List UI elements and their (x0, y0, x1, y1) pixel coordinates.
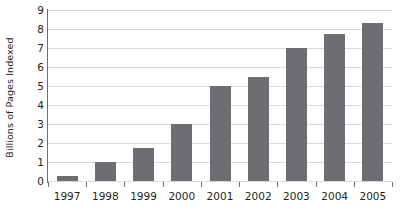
y-axis-tick-label: 1 (28, 157, 44, 167)
y-axis-tick-label: 9 (28, 5, 44, 15)
bar (286, 48, 307, 181)
bar (210, 86, 231, 181)
x-axis-tick-label: 2005 (354, 190, 392, 202)
x-axis-tick-mark (48, 182, 49, 187)
bar (171, 124, 192, 181)
bar (248, 77, 269, 182)
gridline (48, 181, 392, 182)
x-axis-tick-label: 2002 (239, 190, 277, 202)
bar (324, 34, 345, 181)
x-axis-tick-label: 2004 (316, 190, 354, 202)
x-axis-tick-mark (86, 182, 87, 187)
x-axis-tick-mark (239, 182, 240, 187)
plot-area (48, 10, 392, 181)
x-axis-tick-mark (316, 182, 317, 187)
x-axis-tick-mark (201, 182, 202, 187)
y-axis-tick-label: 8 (28, 24, 44, 34)
bar (57, 176, 78, 181)
bar (362, 23, 383, 181)
y-axis-tick-labels: 0123456789 (24, 0, 44, 221)
x-axis-tick-mark (163, 182, 164, 187)
x-axis-tick-label: 2001 (201, 190, 239, 202)
y-axis-tick-label: 6 (28, 62, 44, 72)
x-axis-tick-label: 2000 (163, 190, 201, 202)
gridline (48, 10, 392, 11)
x-axis-tick-mark (124, 182, 125, 187)
x-axis-tick-mark (354, 182, 355, 187)
bar (133, 148, 154, 181)
x-axis-tick-mark (392, 182, 393, 187)
x-axis-tick-mark (277, 182, 278, 187)
x-axis-tick-label: 1998 (86, 190, 124, 202)
x-axis-tick-label: 1999 (124, 190, 162, 202)
y-axis-title: Billions of Pages Indexed (3, 5, 17, 190)
y-axis-tick-label: 7 (28, 43, 44, 53)
y-axis-tick-label: 5 (28, 81, 44, 91)
gridline (48, 29, 392, 30)
x-axis-tick-label: 2003 (277, 190, 315, 202)
y-axis-tick-label: 3 (28, 119, 44, 129)
y-axis-tick-label: 4 (28, 100, 44, 110)
bar (95, 162, 116, 181)
y-axis-tick-label: 0 (28, 176, 44, 186)
x-axis-tick-label: 1997 (48, 190, 86, 202)
bar-chart: Billions of Pages Indexed 0123456789 199… (0, 0, 400, 221)
y-axis-tick-label: 2 (28, 138, 44, 148)
